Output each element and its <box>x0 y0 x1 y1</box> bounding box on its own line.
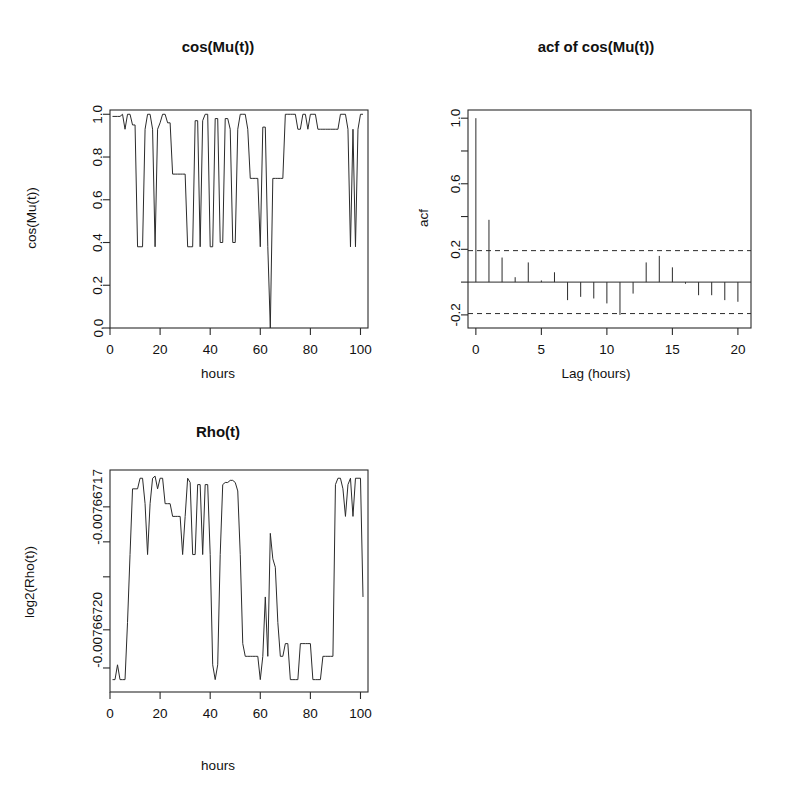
x-tick-label: 40 <box>203 342 218 357</box>
y-tick-label: 1.0 <box>91 105 106 124</box>
panel-rho-plotarea: -0.00766717-0.00766720020406080100 <box>91 469 372 721</box>
y-tick-label: 0.2 <box>449 240 464 259</box>
panel-acf-cos-mu-t: acf of cos(Mu(t)) acf Lag (hours) -0.20.… <box>396 20 791 402</box>
panel-rho-xlabel: hours <box>201 758 235 773</box>
panel-cos-mu-t-title: cos(Mu(t)) <box>182 38 254 55</box>
panel-rho-svg: Rho(t) log2(Rho(t)) hours -0.00766717-0.… <box>0 402 395 794</box>
y-tick-label: 0.6 <box>91 190 106 209</box>
panel-rho-t: Rho(t) log2(Rho(t)) hours -0.00766717-0.… <box>0 402 395 794</box>
y-tick-label: 0.2 <box>91 276 106 295</box>
panel-cos-mu-t-xlabel: hours <box>201 366 235 381</box>
panel-rho-title: Rho(t) <box>196 423 240 440</box>
x-tick-label: 0 <box>472 342 480 357</box>
x-tick-label: 20 <box>730 342 745 357</box>
x-tick-label: 40 <box>203 706 218 721</box>
panel-cos-mu-t-svg: cos(Mu(t)) cos(Mu(t)) hours 0.00.20.40.6… <box>0 20 395 402</box>
plot-box <box>110 470 368 692</box>
y-tick-label: 0.4 <box>91 233 106 252</box>
x-tick-label: 100 <box>349 342 372 357</box>
plot-box <box>110 110 368 328</box>
series-path <box>113 114 363 328</box>
panel-cos-mu-t: cos(Mu(t)) cos(Mu(t)) hours 0.00.20.40.6… <box>0 20 395 402</box>
series-path <box>113 476 363 680</box>
y-tick-label: -0.2 <box>449 303 464 326</box>
panel-acf-title: acf of cos(Mu(t)) <box>538 38 655 55</box>
y-tick-label: 0.6 <box>449 174 464 193</box>
panel-acf-plotarea: -0.20.20.61.005101520 <box>449 109 752 357</box>
y-tick-label: 1.0 <box>449 109 464 128</box>
x-tick-label: 5 <box>538 342 546 357</box>
panel-rho-ylabel: log2(Rho(t)) <box>22 546 37 618</box>
x-tick-label: 60 <box>253 342 268 357</box>
x-tick-label: 20 <box>153 342 168 357</box>
y-tick-label: -0.00766720 <box>91 592 106 668</box>
y-tick-label: 0.0 <box>91 319 106 338</box>
x-tick-label: 80 <box>303 342 318 357</box>
x-tick-label: 80 <box>303 706 318 721</box>
x-tick-label: 100 <box>349 706 372 721</box>
x-tick-label: 60 <box>253 706 268 721</box>
y-tick-label: -0.00766717 <box>91 469 106 545</box>
panel-acf-svg: acf of cos(Mu(t)) acf Lag (hours) -0.20.… <box>396 20 791 402</box>
panel-empty <box>396 402 791 794</box>
panel-cos-mu-t-ylabel: cos(Mu(t)) <box>24 187 39 249</box>
x-tick-label: 0 <box>106 706 114 721</box>
x-tick-label: 20 <box>153 706 168 721</box>
panel-cos-mu-t-plotarea: 0.00.20.40.60.81.0020406080100 <box>91 105 372 357</box>
panel-acf-ylabel: acf <box>416 209 431 227</box>
x-tick-label: 15 <box>665 342 680 357</box>
x-tick-label: 10 <box>599 342 614 357</box>
panel-acf-xlabel: Lag (hours) <box>561 366 630 381</box>
plot-box <box>468 110 751 328</box>
r-plot-figure: cos(Mu(t)) cos(Mu(t)) hours 0.00.20.40.6… <box>0 0 791 804</box>
x-tick-label: 0 <box>106 342 114 357</box>
y-tick-label: 0.8 <box>91 148 106 167</box>
